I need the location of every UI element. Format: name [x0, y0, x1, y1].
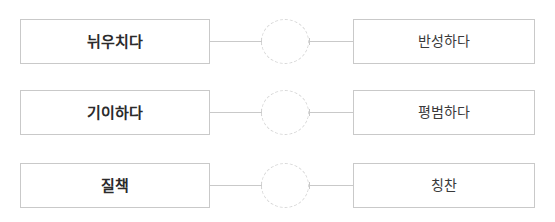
match-row: 기이하다 평범하다 — [0, 90, 555, 135]
answer-circle[interactable] — [261, 90, 309, 135]
right-term-box[interactable]: 칭찬 — [353, 163, 535, 208]
right-term-box[interactable]: 반성하다 — [353, 19, 535, 64]
connector-line-left — [210, 112, 262, 113]
answer-circle[interactable] — [261, 19, 309, 64]
right-term-label: 반성하다 — [418, 35, 471, 49]
right-term-box[interactable]: 평범하다 — [353, 90, 535, 135]
connector-line-left — [210, 41, 262, 42]
match-row: 뉘우치다 반성하다 — [0, 19, 555, 64]
connector-line-right — [309, 112, 353, 113]
left-term-box[interactable]: 기이하다 — [20, 90, 210, 135]
right-term-label: 칭찬 — [431, 179, 457, 193]
left-term-label: 기이하다 — [87, 105, 144, 120]
match-row: 질책 칭찬 — [0, 163, 555, 208]
answer-circle[interactable] — [261, 163, 309, 208]
connector-line-left — [210, 185, 262, 186]
left-term-label: 질책 — [101, 178, 129, 193]
left-term-box[interactable]: 질책 — [20, 163, 210, 208]
connector-line-right — [309, 41, 353, 42]
connector-line-right — [309, 185, 353, 186]
matching-worksheet: 뉘우치다 반성하다 기이하다 평범하다 질책 — [0, 0, 555, 222]
right-term-label: 평범하다 — [418, 106, 471, 120]
left-term-label: 뉘우치다 — [87, 34, 144, 49]
left-term-box[interactable]: 뉘우치다 — [20, 19, 210, 64]
